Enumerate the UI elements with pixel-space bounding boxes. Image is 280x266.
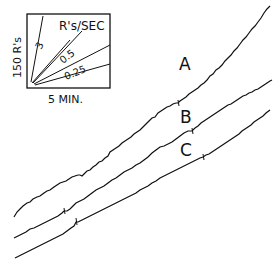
curve-a-hash-mark: [178, 100, 179, 106]
curve-c: [15, 110, 270, 258]
rate-label-3: 3: [33, 40, 46, 51]
cumulative-record-chart: R's/SEC 3 0.5 0.25 150 R's 5 MIN. A B C: [0, 0, 280, 266]
curve-b-label: B: [180, 107, 192, 127]
curve-c-label: C: [180, 140, 192, 160]
rate-label-025: 0.25: [63, 63, 88, 82]
curve-a: [14, 6, 270, 217]
curve-b-hash-mark-2: [192, 128, 193, 134]
x-scale-label: 5 MIN.: [48, 93, 83, 106]
curve-c-hash-mark-2: [203, 154, 204, 160]
rate-legend-inset: R's/SEC 3 0.5 0.25 150 R's 5 MIN.: [11, 14, 110, 106]
rate-label-05: 0.5: [57, 47, 76, 65]
curve-b-hash-mark-1: [64, 208, 65, 214]
rate-title: R's/SEC: [59, 19, 105, 33]
y-scale-label: 150 R's: [11, 37, 24, 78]
curve-c-hash-mark-1: [76, 218, 77, 225]
curve-a-label: A: [179, 54, 191, 74]
